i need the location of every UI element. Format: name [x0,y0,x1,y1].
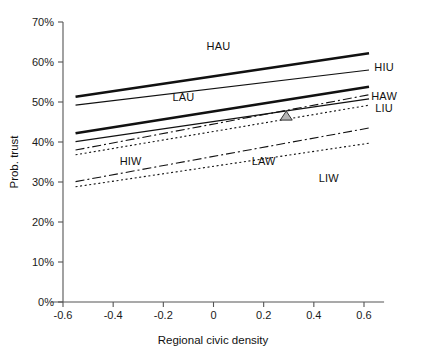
series-label-liu: LIU [375,102,393,114]
series-label-liw: LIW [319,172,340,184]
x-axis-tick-label: 0.4 [306,309,321,321]
y-axis-tick-label: 0% [38,296,54,308]
y-axis-tick-label: 30% [32,176,54,188]
y-axis-tick-label: 20% [32,216,54,228]
x-axis-tick-label: 0.6 [356,309,371,321]
series-label-hiu: HIU [374,61,394,73]
x-axis-tick-label: -0.2 [154,309,173,321]
series-label-lau: LAU [172,91,194,103]
x-axis-tick-label: 0.2 [256,309,271,321]
y-axis-tick-label: 70% [32,16,54,28]
y-axis-title: Prob. trust [8,135,20,189]
series-label-hau: HAU [207,40,231,52]
x-axis-title: Regional civic density [158,334,269,346]
chart-container: 0%10%20%30%40%50%60%70%-0.6-0.4-0.200.20… [0,0,430,354]
y-axis-tick-label: 50% [32,96,54,108]
x-axis-tick-label: -0.4 [104,309,123,321]
x-axis-tick-label: 0 [210,309,216,321]
series-label-haw: HAW [371,90,397,102]
line-chart: 0%10%20%30%40%50%60%70%-0.6-0.4-0.200.20… [0,0,430,354]
x-axis-tick-label: -0.6 [54,309,73,321]
y-axis-tick-label: 60% [32,56,54,68]
y-axis-tick-label: 10% [32,256,54,268]
y-axis-tick-label: 40% [32,136,54,148]
series-label-law: LAW [252,155,276,167]
series-label-hiw: HIW [120,155,142,167]
